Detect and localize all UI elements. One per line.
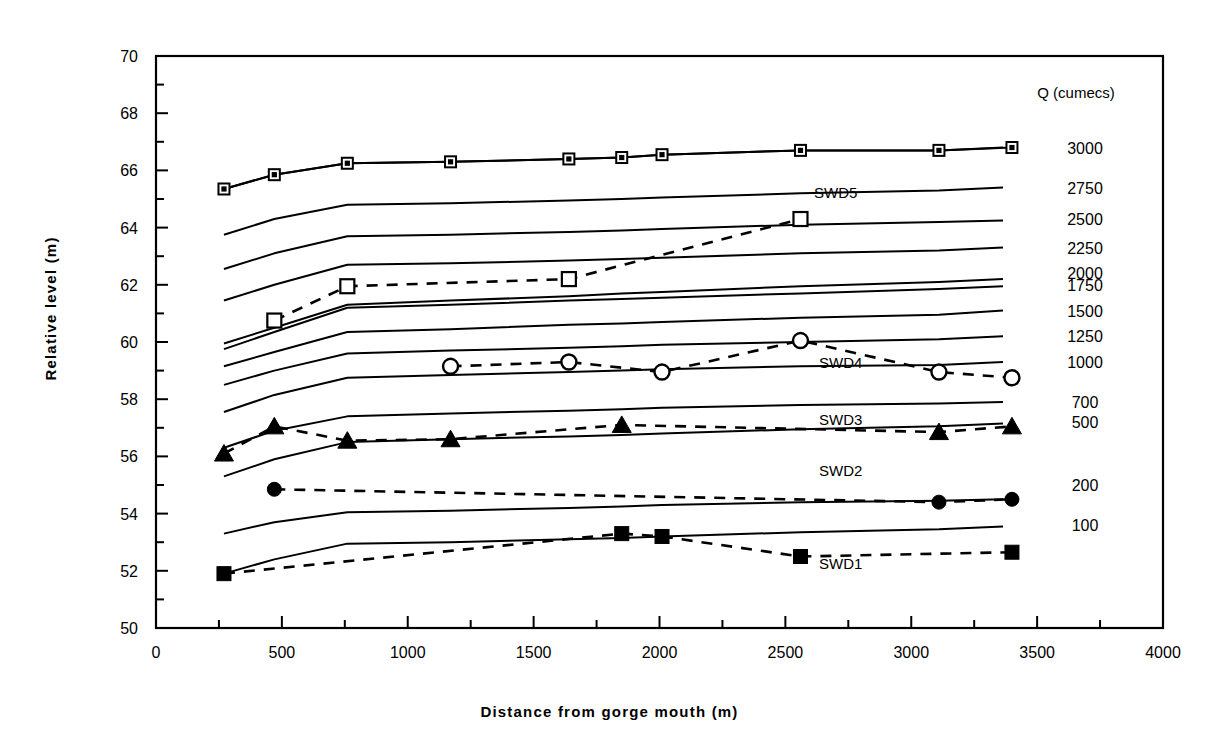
marker-filled-circle <box>267 482 281 496</box>
x-axis: 05001000150020002500300035004000 <box>152 616 1181 661</box>
marker-open-circle <box>931 365 946 380</box>
legend-value-1750: 1750 <box>1067 277 1103 294</box>
marker-open-circle <box>443 359 458 374</box>
marker-square-crossed-core <box>1009 145 1014 150</box>
marker-open-circle <box>561 355 576 370</box>
series-line <box>224 148 1003 189</box>
series-SWD5 <box>267 212 807 328</box>
marker-open-square <box>340 279 354 293</box>
series-SWD3 <box>214 416 1021 461</box>
y-tick-label: 66 <box>120 162 138 179</box>
annotation-SWD3: SWD3 <box>819 411 862 428</box>
marker-square-crossed-core <box>936 148 941 153</box>
marker-filled-circle <box>932 495 946 509</box>
y-tick-label: 54 <box>120 506 138 523</box>
annotation-SWD1: SWD1 <box>819 555 862 572</box>
x-axis-title: Distance from gorge mouth (m) <box>0 703 1219 720</box>
series-group <box>214 142 1021 581</box>
series-line <box>274 489 1012 502</box>
legend-value-2750: 2750 <box>1067 180 1103 197</box>
legend-value-100: 100 <box>1072 517 1099 534</box>
marker-open-square <box>267 314 281 328</box>
marker-square-crossed-core <box>221 186 226 191</box>
annotations: SWD5SWD4SWD3SWD2SWD1 <box>814 184 862 573</box>
marker-filled-square <box>793 550 807 564</box>
series-line <box>224 402 1003 448</box>
y-axis: 5052545658606264666870 <box>120 48 168 637</box>
x-tick-label: 4000 <box>1145 644 1181 661</box>
y-tick-label: 52 <box>120 563 138 580</box>
y-tick-label: 68 <box>120 105 138 122</box>
marker-square-crossed-core <box>619 155 624 160</box>
marker-filled-square <box>217 567 231 581</box>
series-Q700 <box>224 402 1003 448</box>
series-SWD4 <box>443 333 1019 385</box>
y-tick-label: 62 <box>120 277 138 294</box>
legend-value-2250: 2250 <box>1067 240 1103 257</box>
y-axis-title: Relative level (m) <box>42 199 59 419</box>
marker-square-crossed-core <box>566 156 571 161</box>
marker-square-crossed-core <box>345 161 350 166</box>
series-Q1500 <box>224 311 1003 367</box>
legend-value-1500: 1500 <box>1067 303 1103 320</box>
marker-square-crossed-core <box>448 159 453 164</box>
series-3000 <box>218 142 1017 194</box>
marker-open-square <box>793 212 807 226</box>
x-tick-label: 0 <box>152 644 161 661</box>
legend-title: Q (cumecs) <box>1037 84 1115 101</box>
marker-open-circle <box>655 365 670 380</box>
x-tick-label: 3000 <box>893 644 929 661</box>
marker-open-square <box>562 272 576 286</box>
y-tick-label: 58 <box>120 391 138 408</box>
y-tick-label: 60 <box>120 334 138 351</box>
x-tick-label: 2000 <box>642 644 678 661</box>
marker-square-crossed-core <box>659 152 664 157</box>
marker-filled-square <box>615 527 629 541</box>
series-line <box>224 526 1003 573</box>
series-line <box>224 499 1003 533</box>
marker-square-crossed-core <box>272 172 277 177</box>
marker-square-crossed-core <box>798 148 803 153</box>
marker-filled-circle <box>1005 492 1019 506</box>
legend-value-3000: 3000 <box>1067 140 1103 157</box>
series-SWD1 <box>217 527 1019 581</box>
x-tick-label: 2500 <box>768 644 804 661</box>
x-tick-label: 3500 <box>1019 644 1055 661</box>
legend-value-1250: 1250 <box>1067 328 1103 345</box>
legend-value-700: 700 <box>1072 394 1099 411</box>
marker-filled-square <box>655 529 669 543</box>
series-Q2500 <box>224 220 1003 269</box>
marker-open-circle <box>793 333 808 348</box>
chart-canvas: 5052545658606264666870050010001500200025… <box>0 0 1219 749</box>
marker-filled-triangle <box>265 417 284 434</box>
series-line <box>224 220 1003 269</box>
legend-value-2500: 2500 <box>1067 211 1103 228</box>
x-tick-label: 1000 <box>390 644 426 661</box>
annotation-SWD4: SWD4 <box>819 354 862 371</box>
annotation-SWD2: SWD2 <box>819 462 862 479</box>
series-line <box>224 188 1003 235</box>
series-Q3000 <box>224 148 1003 189</box>
marker-open-circle <box>1004 370 1019 385</box>
chart-figure: 5052545658606264666870050010001500200025… <box>0 0 1219 749</box>
legend: Q (cumecs)300027502500225020001750150012… <box>1037 84 1115 534</box>
series-Q100 <box>224 526 1003 573</box>
legend-value-500: 500 <box>1072 414 1099 431</box>
series-Q200 <box>224 499 1003 533</box>
series-line <box>224 311 1003 367</box>
y-tick-label: 64 <box>120 220 138 237</box>
annotation-SWD5: SWD5 <box>814 184 857 201</box>
x-tick-label: 1500 <box>516 644 552 661</box>
y-tick-label: 56 <box>120 448 138 465</box>
series-Q2750 <box>224 188 1003 235</box>
marker-filled-square <box>1005 545 1019 559</box>
marker-filled-triangle <box>612 416 631 433</box>
legend-value-200: 200 <box>1072 477 1099 494</box>
marker-filled-triangle <box>214 445 233 462</box>
legend-value-1000: 1000 <box>1067 354 1103 371</box>
y-tick-label: 50 <box>120 620 138 637</box>
y-tick-label: 70 <box>120 48 138 65</box>
x-tick-label: 500 <box>269 644 296 661</box>
